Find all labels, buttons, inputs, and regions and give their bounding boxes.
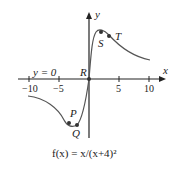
asymptote-label: y = 0 bbox=[32, 66, 57, 78]
point-s bbox=[99, 30, 103, 34]
x-axis-label: x bbox=[162, 64, 168, 76]
point-p-label: P bbox=[69, 107, 77, 119]
x-tick-neg10: −10 bbox=[22, 83, 38, 94]
point-t-label: T bbox=[115, 30, 122, 42]
point-q-label: Q bbox=[72, 127, 80, 139]
x-axis-arrow-icon bbox=[159, 76, 166, 82]
x-tick-5: 5 bbox=[116, 83, 121, 94]
function-caption: f(x) = x/(x+4)² bbox=[52, 147, 117, 160]
function-graph: x y −10 −5 5 10 y = 0 P Q R S T f(x) = x… bbox=[0, 0, 172, 177]
point-r bbox=[87, 77, 91, 81]
point-r-label: R bbox=[79, 66, 87, 78]
x-tick-neg5: −5 bbox=[53, 83, 64, 94]
point-p bbox=[67, 121, 71, 125]
y-axis-arrow-icon bbox=[86, 12, 92, 19]
point-t bbox=[107, 34, 111, 38]
x-tick-10: 10 bbox=[144, 83, 154, 94]
point-s-label: S bbox=[98, 37, 104, 49]
y-axis-label: y bbox=[94, 8, 100, 20]
